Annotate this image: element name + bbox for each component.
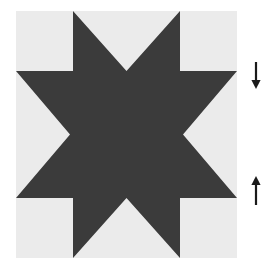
star-figure-svg	[0, 0, 268, 272]
figure-container: Eight-pointed star quilt block diagram	[0, 0, 268, 272]
